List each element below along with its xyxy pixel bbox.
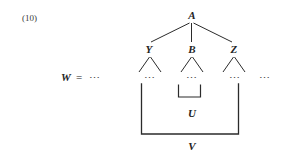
triangle-Z-right-leg (235, 57, 246, 72)
under-bracket-V (142, 84, 239, 134)
edge-root-to-Z (194, 23, 233, 42)
under-bracket-U (179, 85, 201, 97)
triangle-B-left-leg (181, 57, 192, 72)
tree-edges-and-brackets (0, 0, 289, 162)
triangle-B-right-leg (193, 57, 204, 72)
triangle-Z-left-leg (223, 57, 234, 72)
tree-diagram-figure: (10) W = ⋯ A Y B Z ⋯ ⋯ ⋯ ⋯ U V (0, 0, 289, 162)
triangle-Y-right-leg (151, 57, 162, 72)
edge-root-to-Y (151, 23, 190, 42)
triangle-Y-left-leg (139, 57, 150, 72)
